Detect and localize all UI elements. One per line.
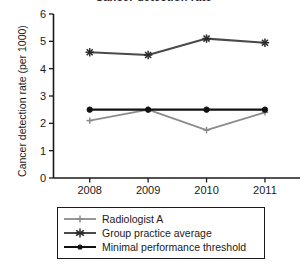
chart-legend: Radiologist A Group practice average Min… [57, 207, 265, 259]
chart-title-strip: Cancer detection rate [0, 0, 307, 7]
legend-item-minimal-performance-threshold: Minimal performance threshold [63, 240, 259, 254]
svg-text:2008: 2008 [77, 184, 101, 196]
legend-marker-circle-icon [63, 241, 97, 253]
y-axis-tick-labels: 0123456 [40, 8, 46, 184]
legend-label-minimal-performance-threshold: Minimal performance threshold [102, 241, 246, 253]
legend-marker-asterisk-icon [63, 227, 97, 239]
plot-area: 0123456 2008200920102011 Cancer detectio… [0, 7, 307, 202]
legend-item-radiologist-a: Radiologist A [63, 212, 259, 226]
chart-figure: Cancer detection rate 0123456 2008200920… [0, 0, 307, 270]
svg-text:2011: 2011 [253, 184, 277, 196]
svg-text:4: 4 [40, 63, 46, 75]
svg-text:1: 1 [40, 145, 46, 157]
x-axis-tick-labels: 2008200920102011 [77, 184, 276, 196]
svg-text:0: 0 [40, 172, 46, 184]
series-group-practice-average [86, 34, 270, 59]
line-chart-svg: 0123456 2008200920102011 [0, 7, 307, 202]
legend-label-group-practice-average: Group practice average [102, 227, 212, 239]
svg-text:2009: 2009 [136, 184, 160, 196]
y-axis-title: Cancer detection rate (per 1000) [16, 16, 28, 186]
legend-label-radiologist-a: Radiologist A [102, 213, 163, 225]
svg-text:6: 6 [40, 8, 46, 20]
chart-title: Cancer detection rate [0, 0, 307, 3]
series-minimal-performance-threshold [87, 107, 268, 112]
legend-marker-cross-icon [63, 213, 97, 225]
svg-text:2: 2 [40, 117, 46, 129]
svg-text:3: 3 [40, 90, 46, 102]
legend-item-group-practice-average: Group practice average [63, 226, 259, 240]
data-series-layer [86, 34, 270, 133]
svg-text:2010: 2010 [194, 184, 218, 196]
svg-text:5: 5 [40, 35, 46, 47]
